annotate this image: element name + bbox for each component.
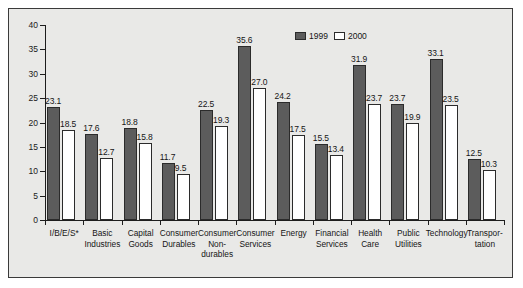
bar-group: 22.519.3 [198,25,236,220]
y-tick-label: 25 [0,93,38,103]
bar-value-label: 23.1 [45,96,61,106]
x-tick [504,220,505,225]
bar-value-label: 11.7 [160,152,176,162]
bar-group: 11.79.5 [160,25,198,220]
bar-value-label: 23.7 [366,93,382,103]
bar-value-label: 13.4 [328,144,344,154]
bar-value-label: 27.0 [251,77,267,87]
bar-1999-10 [430,59,443,220]
bar-2000-2 [139,143,152,220]
bar-1999-4 [200,110,213,220]
bar-value-label: 12.7 [98,147,114,157]
x-tick [466,220,467,225]
bar-1999-8 [353,65,366,221]
bar-1999-11 [468,159,481,220]
bar-value-label: 19.3 [213,115,229,125]
legend-swatch-icon [295,32,306,40]
bar-group: 23.719.9 [389,25,427,220]
y-tick-label: 10 [0,166,38,176]
bar-group: 12.510.3 [466,25,504,220]
y-tick-label: 40 [0,20,38,30]
bar-group: 17.612.7 [83,25,121,220]
legend-item-1999[interactable]: 1999 [295,31,328,41]
bar-1999-2 [124,128,137,220]
bar-1999-3 [162,163,175,220]
bar-value-label: 23.5 [443,94,459,104]
x-tick [83,220,84,225]
bar-value-label: 33.1 [428,48,444,58]
bar-value-label: 18.8 [122,117,138,127]
y-tick-label: 15 [0,142,38,152]
bar-2000-1 [100,158,113,220]
bar-2000-3 [177,174,190,220]
category-label-11: Transpor- tation [460,228,510,249]
x-tick [351,220,352,225]
bar-value-label: 9.5 [175,163,187,173]
bar-group: 33.123.5 [428,25,466,220]
bar-2000-8 [368,104,381,220]
bar-value-label: 31.9 [351,54,367,64]
x-tick [236,220,237,225]
bar-1999-7 [315,144,328,220]
bar-value-label: 15.5 [313,133,329,143]
x-tick [428,220,429,225]
bar-1999-9 [391,104,404,220]
x-tick [160,220,161,225]
bar-value-label: 23.7 [389,93,405,103]
bar-value-label: 17.5 [290,124,306,134]
bar-2000-5 [253,88,266,220]
chart-frame: 0510152025303540 23.118.517.612.718.815.… [8,8,513,278]
bar-group: 31.923.7 [351,25,389,220]
legend-swatch-icon [334,32,345,40]
x-tick [122,220,123,225]
bar-series-container: 23.118.517.612.718.815.811.79.522.519.33… [45,25,504,220]
bar-1999-5 [238,46,251,220]
x-tick [313,220,314,225]
bar-value-label: 12.5 [466,148,482,158]
y-tick-label: 30 [0,69,38,79]
bar-2000-6 [292,135,305,220]
bar-group: 24.217.5 [275,25,313,220]
bar-group: 35.627.0 [236,25,274,220]
bar-2000-0 [62,130,75,220]
category-labels: I/B/E/S*Basic IndustriesCapital GoodsCon… [45,228,504,273]
bar-2000-7 [330,155,343,220]
bar-value-label: 19.9 [404,112,420,122]
bar-value-label: 15.8 [137,132,153,142]
bar-1999-0 [47,107,60,220]
legend-item-2000[interactable]: 2000 [334,31,367,41]
bar-1999-1 [85,134,98,220]
plot-area: 0510152025303540 23.118.517.612.718.815.… [9,9,512,277]
bar-value-label: 10.3 [481,159,497,169]
bar-2000-9 [406,123,419,220]
legend-label: 2000 [348,31,367,41]
bar-group: 15.513.4 [313,25,351,220]
bar-2000-10 [445,105,458,220]
bar-value-label: 24.2 [275,91,291,101]
chart-legend: 19992000 [295,31,367,41]
legend-label: 1999 [309,31,328,41]
y-tick-label: 5 [0,191,38,201]
bar-2000-11 [483,170,496,220]
bar-1999-6 [277,102,290,220]
bar-group: 23.118.5 [45,25,83,220]
bar-value-label: 22.5 [198,99,214,109]
bar-value-label: 18.5 [60,119,76,129]
x-tick [389,220,390,225]
y-tick-label: 35 [0,44,38,54]
bar-group: 18.815.8 [122,25,160,220]
y-tick-label: 20 [0,118,38,128]
y-tick-label: 0 [0,215,38,225]
bar-value-label: 35.6 [236,35,252,45]
x-tick [198,220,199,225]
x-tick [45,220,46,225]
bar-value-label: 17.6 [83,123,99,133]
bar-2000-4 [215,126,228,220]
x-tick [275,220,276,225]
